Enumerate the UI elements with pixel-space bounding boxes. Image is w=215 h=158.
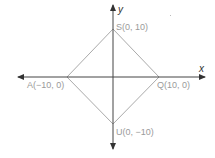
coordinate-plane: y x S(0, 10) Q(10, 0) U(0, −10) A(−10, 0… [0,0,215,158]
vertex-label-a: A(−10, 0) [27,80,64,90]
vertex-label-q: Q(10, 0) [157,80,190,90]
stray-dot [170,15,171,16]
x-axis-label: x [198,63,205,74]
vertex-label-u: U(0, −10) [116,127,154,137]
y-axis-label: y [117,4,124,15]
vertex-label-s: S(0, 10) [116,22,148,32]
